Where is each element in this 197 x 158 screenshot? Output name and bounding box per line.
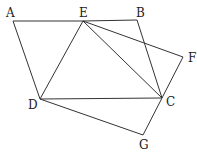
segments [13, 20, 183, 135]
geometry-diagram: A E B F C D G [0, 0, 197, 158]
label-F: F [188, 51, 196, 65]
segment-FC [162, 57, 183, 98]
point-labels: A E B F C D G [5, 6, 196, 152]
label-G: G [139, 138, 149, 152]
segment-DC [40, 98, 162, 99]
segment-ED [40, 21, 83, 99]
label-D: D [28, 98, 38, 112]
segment-CG [143, 98, 162, 135]
segment-AD [13, 21, 40, 99]
label-E: E [79, 6, 88, 20]
segment-DG [40, 99, 143, 135]
segment-EF [83, 21, 183, 57]
label-B: B [136, 6, 145, 20]
label-C: C [166, 95, 175, 109]
segment-EB [83, 20, 137, 21]
label-A: A [5, 6, 15, 20]
